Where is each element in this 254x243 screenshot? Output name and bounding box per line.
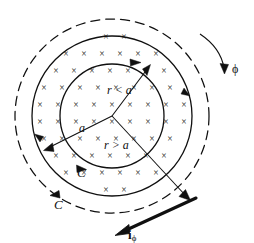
field-mark-into-page: × (103, 185, 108, 195)
field-mark-into-page: × (163, 117, 168, 127)
field-mark-into-page: × (89, 66, 94, 76)
phi-direction-arc (200, 34, 224, 68)
field-mark-into-page: × (135, 49, 140, 59)
field-mark-into-page: × (117, 49, 122, 59)
field-mark-into-page: × (167, 134, 172, 144)
field-mark-into-page: × (99, 49, 104, 59)
field-mark-into-page: × (161, 151, 166, 161)
field-mark-into-page: × (73, 117, 78, 127)
field-mark-into-page: × (53, 151, 58, 161)
field-mark-into-page: × (127, 100, 132, 110)
field-mark-into-page: × (149, 83, 154, 93)
field-mark-into-page: × (149, 134, 154, 144)
field-mark-into-page: × (163, 100, 168, 110)
field-mark-into-page: × (145, 100, 150, 110)
field-mark-into-page: × (89, 151, 94, 161)
field-mark-into-page: × (107, 151, 112, 161)
field-mark-into-page: × (117, 168, 122, 178)
field-mark-into-page: × (143, 66, 148, 76)
field-mark-into-page: × (63, 49, 68, 59)
field-mark-into-page: × (77, 134, 82, 144)
field-mark-into-page: × (71, 66, 76, 76)
label-contour-inner-c: C (77, 166, 86, 179)
field-mark-into-page: × (71, 151, 76, 161)
field-mark-into-page: × (37, 117, 42, 127)
field-mark-into-page: × (109, 117, 114, 127)
field-mark-into-page: × (59, 83, 64, 93)
field-mark-into-page: × (181, 117, 186, 127)
field-mark-into-page: × (53, 66, 58, 76)
field-mark-into-page: × (91, 100, 96, 110)
inner-contour-arrowhead-top (130, 59, 141, 66)
field-mark-into-page: × (143, 151, 148, 161)
field-mark-into-page: × (125, 151, 130, 161)
field-mark-into-page: × (41, 134, 46, 144)
field-mark-into-page: × (131, 83, 136, 93)
field-mark-into-page: × (103, 32, 108, 42)
field-mark-into-page: × (95, 134, 100, 144)
field-mark-into-page: × (81, 49, 86, 59)
field-mark-into-page: × (107, 66, 112, 76)
label-contour-outer-c: C (54, 198, 63, 211)
field-mark-into-page: × (153, 49, 158, 59)
field-mark-into-page: × (37, 100, 42, 110)
figure-canvas: ××××××××××××××××××××××××××××××××××××××××… (0, 0, 254, 243)
field-mark-into-page: × (77, 83, 82, 93)
label-radius-a: a (79, 122, 85, 134)
label-surface-current-subscript: ϕ (132, 233, 137, 243)
field-mark-into-page: × (167, 83, 172, 93)
field-mark-into-page: × (59, 134, 64, 144)
phi-direction-arrowhead (220, 64, 229, 75)
field-mark-into-page: × (55, 117, 60, 127)
field-mark-into-page: × (91, 117, 96, 127)
surface-current-arrow-shaft (122, 198, 196, 232)
field-mark-into-page: × (153, 168, 158, 178)
label-r-greater-than-a: r > a (104, 139, 129, 151)
field-mark-into-page: × (109, 100, 114, 110)
field-mark-into-page: × (135, 168, 140, 178)
field-mark-into-page: × (95, 83, 100, 93)
field-mark-into-page: × (99, 168, 104, 178)
label-phi-direction: ϕ (232, 63, 238, 75)
field-mark-into-page: × (121, 185, 126, 195)
label-r-less-than-a: r < a (107, 84, 132, 96)
label-surface-current: iϕ (128, 228, 136, 243)
field-mark-into-page: × (41, 83, 46, 93)
radius-line-r-greater-than-a (112, 116, 186, 196)
field-mark-into-page: × (73, 100, 78, 110)
radius-arrowhead-r-greater-than-a (179, 190, 191, 201)
field-mark-into-page: × (127, 117, 132, 127)
physics-figure: ××××××××××××××××××××××××××××××××××××××××… (0, 0, 254, 243)
field-mark-into-page: × (161, 66, 166, 76)
field-mark-into-page: × (121, 32, 126, 42)
field-mark-into-page: × (181, 100, 186, 110)
field-mark-into-page: × (145, 117, 150, 127)
field-mark-into-page: × (55, 100, 60, 110)
field-mark-into-page: × (63, 168, 68, 178)
field-mark-into-page: × (125, 66, 130, 76)
field-mark-into-page: × (131, 134, 136, 144)
